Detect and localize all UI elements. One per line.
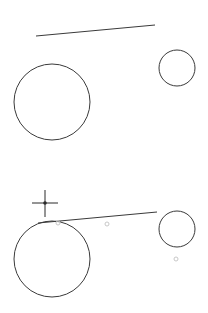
line-segment[interactable] bbox=[36, 25, 155, 36]
snap-marker bbox=[174, 257, 178, 261]
panel-after bbox=[14, 190, 195, 297]
snap-marker bbox=[105, 222, 109, 226]
panel-before bbox=[14, 25, 195, 140]
drawing-canvas[interactable] bbox=[0, 0, 208, 313]
crosshair-cursor-icon bbox=[32, 190, 58, 217]
circle-small[interactable] bbox=[159, 50, 195, 86]
circle-large[interactable] bbox=[14, 221, 90, 297]
circle-small[interactable] bbox=[159, 211, 195, 247]
circle-large[interactable] bbox=[14, 64, 90, 140]
